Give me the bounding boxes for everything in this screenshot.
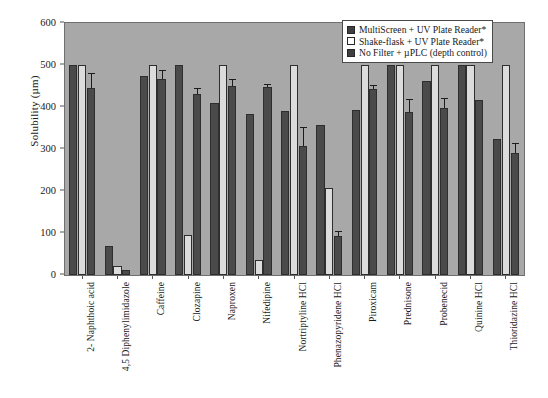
legend-swatch-icon [347,26,355,34]
error-bar-cap [370,85,377,86]
bar [316,125,324,275]
x-axis-tick-label: Prednisone [403,282,413,325]
x-axis-tick-label: Probenecid [439,282,449,326]
bar [87,88,95,275]
y-axis-tick-label: 400 [30,101,56,112]
bar-group [65,23,100,275]
error-bar-cap [88,73,95,74]
x-axis-tick-label: 2- Naphthoic acid [86,282,96,352]
y-axis-tick-label: 100 [30,227,56,238]
x-axis-tick-mark [152,276,153,279]
bar [105,246,113,275]
y-axis-tick-label: 600 [30,17,56,28]
bar [122,270,130,275]
legend-item-label: No Filter + µPLC (depth control) [359,47,487,59]
x-axis-labels: 2- Naphthoic acid4,5 DiphenylimidazoleCa… [64,276,523,398]
x-axis-tick-mark [223,276,224,279]
legend-swatch-icon [347,49,355,57]
x-axis-tick-label: Piroxicam [368,282,378,322]
solubility-bar-chart: Solubility (µm) 0100200300400500600 Mult… [0,0,548,398]
bar [281,111,289,275]
error-bar [515,144,516,153]
chart-legend: MultiScreen + UV Plate Reader*Shake-flas… [342,20,493,63]
error-bar-cap [159,70,166,71]
x-axis-tick-label: Naproxen [227,282,237,320]
bar [299,146,307,275]
bar [466,65,474,275]
bar [193,94,201,275]
x-axis-tick-label: 4,5 Diphenylimidazole [121,282,131,371]
bar [184,235,192,275]
error-bar [409,100,410,112]
error-bar [197,89,198,94]
error-bar-cap [229,79,236,80]
error-bar-cap [441,98,448,99]
error-bar-cap [406,99,413,100]
bar [228,86,236,275]
legend-item: No Filter + µPLC (depth control) [347,47,487,59]
bar-group [242,23,277,275]
y-axis: 0100200300400500600 [34,16,64,280]
x-axis-tick-mark [470,276,471,279]
error-bar [267,85,268,87]
legend-item: MultiScreen + UV Plate Reader* [347,24,487,36]
x-axis-tick-mark [435,276,436,279]
bar [263,87,271,275]
bar [246,114,254,275]
bar-group [206,23,241,275]
x-axis-tick-label: Nifedipine [262,282,272,324]
x-axis-tick-label: Clozapine [192,282,202,321]
bar [431,65,439,275]
x-axis-tick-mark [399,276,400,279]
x-axis-tick-mark [258,276,259,279]
error-bar [444,99,445,108]
bar [422,81,430,275]
bar-group [171,23,206,275]
bar [255,260,263,275]
bar [458,65,466,275]
x-axis-tick-label: Caffeine [156,282,166,315]
bar [113,266,121,275]
error-bar-cap [264,84,271,85]
bar [387,65,395,275]
bar [157,79,165,275]
x-axis-tick-mark [117,276,118,279]
bar [352,110,360,275]
bar [440,108,448,275]
bar [290,65,298,275]
x-axis-tick-mark [364,276,365,279]
bar [502,65,510,275]
bar [493,139,501,276]
y-axis-tick-label: 0 [30,269,56,280]
x-axis-tick-mark [294,276,295,279]
bar [475,100,483,275]
bar [219,65,227,275]
bar [325,188,333,275]
bar-group [277,23,312,275]
bar [149,65,157,275]
legend-item: Shake-flask + UV Plate Reader* [347,36,487,48]
error-bar [162,71,163,79]
error-bar-cap [300,127,307,128]
x-axis-tick-mark [82,276,83,279]
x-axis-tick-label: Nortriptyline HCl [298,282,308,352]
error-bar-cap [194,88,201,89]
legend-item-label: Shake-flask + UV Plate Reader* [359,36,484,48]
bar [396,65,404,275]
error-bar-cap [512,143,519,144]
bar [69,65,77,275]
error-bar [373,86,374,89]
y-axis-tick-label: 500 [30,59,56,70]
x-axis-tick-mark [505,276,506,279]
error-bar-cap [335,231,342,232]
x-axis-tick-mark [188,276,189,279]
bar [78,65,86,275]
bar [361,65,369,275]
x-axis-tick-label: Quinine HCl [474,282,484,332]
bar [334,236,342,275]
bar [210,103,218,275]
bar-group [100,23,135,275]
error-bar [303,128,304,146]
bar [405,112,413,275]
x-axis-tick-label: Phenazopyridene HCl [333,282,343,368]
